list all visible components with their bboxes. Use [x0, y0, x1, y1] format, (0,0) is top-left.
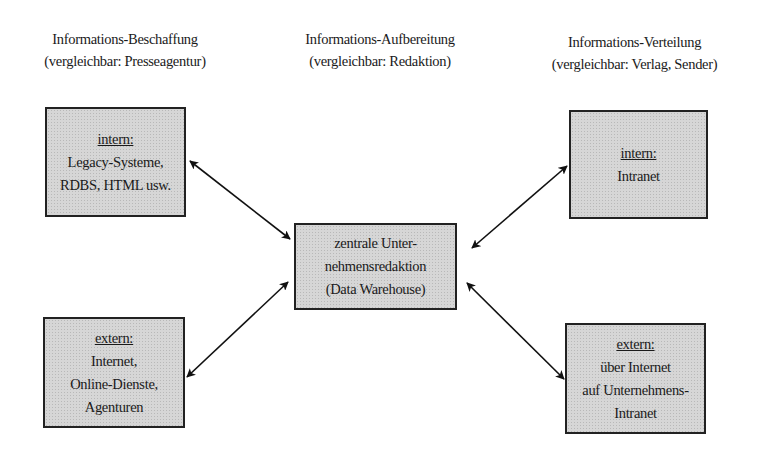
arrow-source-external-center	[187, 282, 288, 377]
box-line: RDBS, HTML usw.	[60, 174, 171, 197]
box-heading: extern:	[95, 327, 133, 350]
box-heading: extern:	[616, 333, 654, 356]
box-dist-external: extern: über Internet auf Unternehmens- …	[565, 323, 706, 434]
box-line: Online-Dienste,	[70, 373, 158, 396]
arrow-source-internal-center	[190, 161, 290, 239]
box-line: über Internet	[600, 356, 671, 379]
box-line: auf Unternehmens-	[582, 379, 688, 402]
box-source-external: extern: Internet, Online-Dienste, Agentu…	[43, 317, 185, 428]
box-dist-internal: intern: Intranet	[569, 110, 708, 219]
box-central-editorial: zentrale Unter- nehmensredaktion (Data W…	[294, 223, 457, 310]
box-line: Agenturen	[85, 396, 144, 419]
box-line: Internet,	[91, 350, 137, 373]
box-line: (Data Warehouse)	[326, 278, 426, 301]
box-line: Intranet	[617, 165, 660, 188]
arrow-center-dist-internal	[472, 166, 567, 248]
box-source-internal: intern: Legacy-Systeme, RDBS, HTML usw.	[45, 107, 186, 217]
box-line: nehmensredaktion	[325, 255, 427, 278]
box-heading: intern:	[98, 128, 134, 151]
box-line: zentrale Unter-	[334, 232, 417, 255]
arrow-center-dist-external	[467, 283, 564, 379]
box-line: Legacy-Systeme,	[68, 151, 164, 174]
box-line: Intranet	[614, 402, 657, 425]
box-heading: intern:	[621, 142, 657, 165]
